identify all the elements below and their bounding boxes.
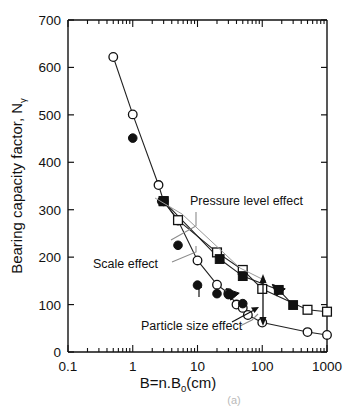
x-tick-label: 0.1 [59,359,78,374]
bearing-capacity-chart: 01002003004005006007000.11101001000B=n.B… [0,0,352,408]
data-point-open-circle [154,181,163,190]
data-point-filled-circle [174,241,183,250]
x-tick-label: 100 [251,359,274,374]
x-tick-label: 10 [190,359,205,374]
y-tick-label: 100 [38,298,61,313]
x-tick-label: 1 [129,359,137,374]
y-tick-label: 600 [38,60,61,75]
data-point-open-circle [128,110,137,119]
x-tick-label: 1000 [312,359,342,374]
y-tick-label: 400 [38,155,61,170]
data-point-filled-square [215,255,224,264]
y-tick-label: 200 [38,250,61,265]
y-tick-label: 0 [53,345,61,360]
x-axis-label: B=n.B0(cm) [140,374,217,394]
y-tick-label: 700 [38,13,61,28]
data-point-open-circle [193,256,202,265]
data-point-open-square [258,285,267,294]
y-tick-label: 300 [38,203,61,218]
data-point-open-square [323,307,332,316]
annotation-label-0: Pressure level effect [190,194,304,208]
y-axis-label: Bearing capacity factor, Nγ [8,98,28,274]
data-point-filled-circle [213,289,222,298]
figure-caption: (a) [227,394,240,406]
data-point-open-circle [109,53,118,62]
data-point-filled-square [238,272,247,281]
data-point-open-circle [213,280,222,289]
data-point-open-circle [303,328,312,337]
data-point-filled-circle [128,134,137,143]
data-point-filled-circle [238,299,247,308]
arrow-head-pointer [251,307,259,313]
data-point-open-square [303,305,312,314]
figure-container: 01002003004005006007000.11101001000B=n.B… [0,0,352,408]
series-line-open-square [164,201,327,312]
data-point-filled-square [289,301,298,310]
data-point-open-circle [323,331,332,340]
data-point-open-square [174,216,183,225]
annotation-label-2: Particle size effect [141,319,243,333]
annotation-label-1: Scale effect [93,257,159,271]
y-tick-label: 500 [38,108,61,123]
